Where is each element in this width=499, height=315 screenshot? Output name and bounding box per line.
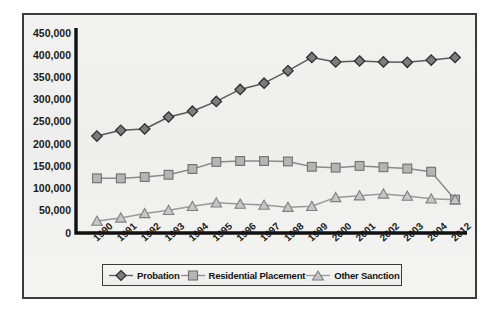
y-axis-tick-label: 200,000 [33,138,71,150]
chart-legend: Probation Residential Placement Other Sa… [102,264,402,286]
data-point-marker [139,124,149,134]
data-point-marker [307,162,316,171]
data-point-marker [212,157,221,166]
square-marker-icon [180,269,206,282]
data-point-marker [331,163,340,172]
data-point-marker [307,52,317,62]
data-point-marker [116,174,125,183]
data-series-probation [92,52,461,141]
legend-label-residential-placement: Residential Placement [209,270,306,281]
data-point-marker [426,55,436,65]
data-point-marker [163,112,173,122]
data-point-marker [284,157,293,166]
y-axis-tick-label: 50,000 [39,204,71,216]
y-axis-tick-label: 350,000 [33,71,71,83]
legend-label-probation: Probation [137,270,180,281]
data-point-marker [402,57,412,67]
data-point-marker [211,96,221,106]
y-axis-tick-label: 450,000 [33,27,71,39]
y-axis-tick-label: 0 [65,227,71,239]
data-point-marker [92,131,102,141]
y-axis-tick-label: 300,000 [33,93,71,105]
data-point-marker [188,165,197,174]
data-point-marker [259,78,269,88]
data-point-marker [164,170,173,179]
legend-item-residential-placement[interactable]: Residential Placement [180,269,306,282]
x-axis-tick-label: 2012 [449,220,473,243]
y-axis-tick-label: 250,000 [33,115,71,127]
data-point-marker [235,84,245,94]
data-point-marker [260,157,269,166]
legend-item-other-sanction[interactable]: Other Sanction [305,269,399,282]
data-point-marker [93,174,102,183]
data-point-marker [403,164,412,173]
legend-item-probation[interactable]: Probation [108,269,180,282]
data-point-marker [450,52,460,62]
legend-label-other-sanction: Other Sanction [334,270,399,281]
data-point-marker [283,66,293,76]
chart-figure: 450,000400,000350,000300,000250,000200,0… [22,13,477,299]
line-chart-canvas: 450,000400,000350,000300,000250,000200,0… [24,15,479,301]
data-point-marker [427,167,436,176]
data-point-marker [355,161,364,170]
diamond-marker-icon [108,269,134,282]
triangle-marker-icon [305,269,331,282]
data-point-marker [379,163,388,172]
data-point-marker [378,57,388,67]
y-axis-tick-label: 400,000 [33,49,71,61]
data-point-marker [354,56,364,66]
data-point-marker [236,157,245,166]
y-axis-tick-label: 150,000 [33,160,71,172]
y-axis-tick-label: 100,000 [33,182,71,194]
data-series-other-sanction [92,189,461,225]
data-point-marker [116,125,126,135]
plot-area: 450,000400,000350,000300,000250,000200,0… [24,15,475,297]
data-point-marker [187,106,197,116]
data-point-marker [140,173,149,182]
data-point-marker [330,57,340,67]
